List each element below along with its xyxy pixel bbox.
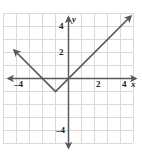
x-axis-label: x (131, 80, 136, 89)
coordinate-plane-svg (0, 0, 142, 153)
y-axis-label: y (72, 15, 76, 24)
x-tick-label-minus4: –4 (14, 80, 23, 89)
graph-figure: –4 2 4 4 2 –4 x y (0, 0, 142, 153)
y-tick-label-2: 2 (59, 48, 64, 57)
x-tick-label-4: 4 (122, 80, 127, 89)
x-tick-label-2: 2 (96, 80, 101, 89)
y-tick-label-4: 4 (59, 22, 64, 31)
absolute-value-curve (14, 16, 131, 92)
y-tick-label-minus4: –4 (56, 126, 65, 135)
